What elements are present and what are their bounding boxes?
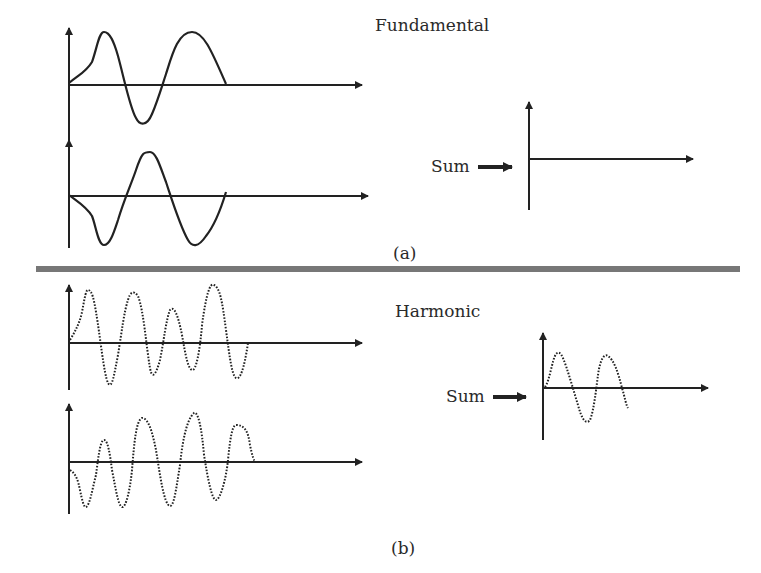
axes-harmonic-2 bbox=[69, 404, 362, 514]
label-sum-a: Sum bbox=[431, 156, 470, 176]
axes-fundamental-1 bbox=[69, 28, 362, 140]
caption-b: (b) bbox=[391, 538, 415, 558]
waveform-harmonic-1 bbox=[70, 285, 248, 385]
axes-sum-b bbox=[543, 333, 708, 440]
label-sum-b: Sum bbox=[446, 386, 485, 406]
panel-a bbox=[69, 28, 693, 248]
waveform-harmonic-2 bbox=[70, 413, 256, 507]
waveform-fundamental-1 bbox=[69, 32, 226, 124]
axes-sum-a bbox=[529, 102, 693, 210]
section-divider bbox=[36, 266, 740, 272]
waveform-fundamental-2 bbox=[69, 152, 226, 245]
caption-a: (a) bbox=[393, 243, 416, 263]
panel-b bbox=[69, 285, 708, 514]
axes-harmonic-1 bbox=[69, 285, 362, 390]
diagram-canvas bbox=[0, 0, 761, 573]
label-harmonic: Harmonic bbox=[395, 301, 480, 321]
label-fundamental: Fundamental bbox=[375, 15, 489, 35]
